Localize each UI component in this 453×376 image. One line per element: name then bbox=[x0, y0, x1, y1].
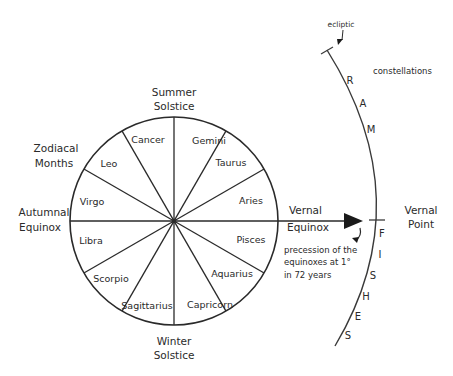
precession-curved-arrow-icon bbox=[352, 228, 361, 243]
wheel-center bbox=[172, 219, 176, 223]
sign-virgo: Virgo bbox=[80, 196, 105, 207]
svg-text:Point: Point bbox=[408, 218, 434, 230]
arrowhead-icon bbox=[344, 213, 363, 229]
letter-a: A bbox=[360, 98, 367, 109]
letter-s1: S bbox=[370, 270, 376, 281]
letter-h: H bbox=[362, 291, 370, 302]
sign-scorpio: Scorpio bbox=[93, 273, 129, 284]
sign-gemini: Gemini bbox=[192, 135, 226, 146]
vernal-equinox-label: Vernal Equinox bbox=[287, 204, 329, 233]
letter-m: M bbox=[367, 124, 376, 135]
sign-sagittarius: Sagittarius bbox=[121, 300, 172, 311]
svg-text:Solstice: Solstice bbox=[154, 100, 195, 112]
letter-r: R bbox=[347, 75, 354, 86]
ecliptic-arc bbox=[321, 47, 385, 346]
letter-s2: S bbox=[345, 330, 351, 341]
svg-text:Equinox: Equinox bbox=[19, 221, 61, 233]
sign-taurus: Taurus bbox=[215, 157, 247, 168]
svg-text:equinoxes at 1°: equinoxes at 1° bbox=[284, 257, 351, 267]
svg-text:Vernal: Vernal bbox=[289, 204, 322, 216]
ecliptic-pointer-icon bbox=[337, 39, 343, 45]
sign-pisces: Pisces bbox=[236, 234, 265, 245]
precession-note: precession of the equinoxes at 1° in 72 … bbox=[284, 245, 357, 280]
sign-leo: Leo bbox=[101, 158, 118, 169]
summer-solstice-label: Summer Solstice bbox=[152, 86, 197, 112]
precession-diagram: Gemini Taurus Aries Pisces Aquarius Capr… bbox=[0, 0, 453, 376]
svg-text:in 72 years: in 72 years bbox=[284, 270, 332, 280]
sign-aquarius: Aquarius bbox=[211, 268, 253, 279]
ecliptic-letters: R A M F I S H E S bbox=[345, 75, 385, 341]
svg-text:Autumnal: Autumnal bbox=[19, 206, 70, 218]
sign-cancer: Cancer bbox=[131, 134, 165, 145]
letter-f: F bbox=[379, 228, 385, 239]
svg-text:Solstice: Solstice bbox=[154, 349, 195, 361]
letter-i: I bbox=[379, 249, 382, 260]
sign-capricorn: Capricorn bbox=[187, 299, 233, 310]
sign-libra: Libra bbox=[79, 235, 103, 246]
svg-text:ecliptic: ecliptic bbox=[328, 20, 355, 29]
svg-text:Zodiacal: Zodiacal bbox=[34, 142, 79, 154]
zodiacal-months-label: Zodiacal Months bbox=[34, 142, 79, 169]
winter-solstice-label: Winter Solstice bbox=[154, 335, 195, 361]
svg-text:Equinox: Equinox bbox=[287, 221, 329, 233]
sign-aries: Aries bbox=[239, 195, 263, 206]
svg-text:Winter: Winter bbox=[157, 335, 192, 347]
letter-e: E bbox=[355, 311, 361, 322]
ecliptic-label: ecliptic bbox=[328, 20, 355, 45]
autumnal-equinox-label: Autumnal Equinox bbox=[19, 206, 70, 233]
constellations-label: constellations bbox=[373, 66, 432, 76]
svg-text:Summer: Summer bbox=[152, 86, 197, 98]
svg-text:Months: Months bbox=[35, 157, 73, 169]
svg-text:Vernal: Vernal bbox=[405, 204, 438, 216]
svg-text:precession of the: precession of the bbox=[284, 245, 357, 255]
zodiac-wheel bbox=[70, 117, 278, 325]
vernal-point-label: Vernal Point bbox=[405, 204, 438, 230]
